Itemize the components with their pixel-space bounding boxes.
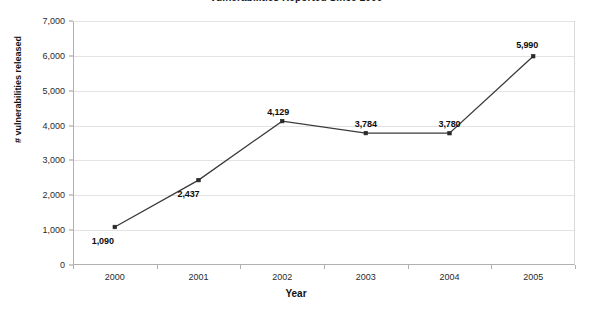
series-line	[115, 56, 533, 227]
data-point-label: 5,990	[516, 40, 538, 50]
data-point-marker	[113, 225, 117, 229]
data-point-marker	[197, 178, 201, 182]
data-point-marker	[364, 131, 368, 135]
series-vulnerabilities	[0, 0, 592, 312]
data-point-marker	[531, 54, 535, 58]
data-point-marker	[448, 131, 452, 135]
series-markers	[113, 54, 535, 228]
data-point-label: 2,437	[177, 189, 199, 199]
x-axis-title: Year	[0, 288, 592, 299]
data-point-marker	[280, 119, 284, 123]
data-point-label: 4,129	[267, 107, 289, 117]
data-point-label: 3,780	[438, 119, 460, 129]
chart-container: Vulnerabilities Reported Since 2000 # vu…	[0, 0, 592, 312]
data-point-label: 1,090	[92, 236, 114, 246]
data-point-label: 3,784	[355, 119, 377, 129]
